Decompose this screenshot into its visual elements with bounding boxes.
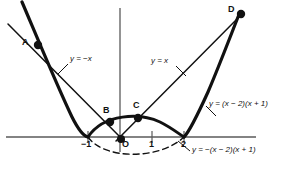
point-C-dot xyxy=(134,114,142,122)
point-B-dot xyxy=(106,118,114,126)
point-label-D: D xyxy=(228,5,235,14)
annotation-parabola: y = (x − 2)(x + 1) xyxy=(209,100,268,108)
annotation-line-negative: y = −x xyxy=(70,55,92,63)
leader-line-negative xyxy=(58,64,68,74)
math-figure: A B C D −1 O 1 2 y = −x y = x y = (x − 2… xyxy=(0,0,307,170)
annotation-line-positive: y = x xyxy=(151,57,168,65)
dashed-mirror-arc xyxy=(88,137,184,154)
parabola-right-branch xyxy=(184,12,240,137)
point-label-A: A xyxy=(22,38,29,47)
axis-tick-label-1: 1 xyxy=(149,140,154,149)
axis-tick-label-minus1: −1 xyxy=(81,140,91,149)
point-label-B: B xyxy=(103,106,110,115)
line-y-equals-x xyxy=(116,16,240,141)
axis-tick-label-2: 2 xyxy=(181,140,186,149)
origin-label: O xyxy=(122,140,129,149)
point-A-dot xyxy=(34,41,42,49)
parabola-left-branch xyxy=(22,2,88,137)
point-D-dot xyxy=(237,10,245,18)
annotation-reflected-parabola: y = −(x − 2)(x + 1) xyxy=(192,146,256,154)
point-label-C: C xyxy=(133,101,140,110)
